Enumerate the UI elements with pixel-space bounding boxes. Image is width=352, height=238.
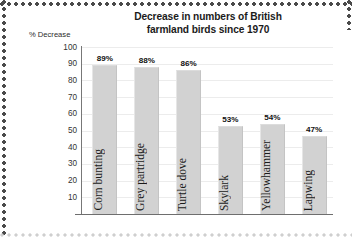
chart-title-line-2: farmland birds since 1970 xyxy=(88,24,328,37)
figure-frame: Decrease in numbers of British farmland … xyxy=(0,0,352,238)
bar-category-wrap: Lapwing xyxy=(302,111,327,211)
bar-category-wrap: Skylark xyxy=(218,111,243,211)
x-axis-line xyxy=(75,214,333,215)
gridline xyxy=(82,47,333,48)
bar-category-label: Turtle dove xyxy=(176,158,201,211)
y-tick-label: 10 xyxy=(51,193,77,202)
dotted-border-bottom xyxy=(0,233,352,237)
gridlines xyxy=(82,47,333,214)
bar-category-wrap: Turtle dove xyxy=(176,111,201,211)
y-axis-label: % Decrease xyxy=(29,30,70,39)
chart-title: Decrease in numbers of British farmland … xyxy=(88,11,328,36)
gridline xyxy=(82,80,333,81)
bar-category-label: Yellowhammer xyxy=(260,140,285,211)
bar-category-wrap: Yellowhammer xyxy=(260,111,285,211)
gridline xyxy=(82,97,333,98)
plot-area: 89%Corn bunting88%Grey partridge86%Turtl… xyxy=(82,47,333,214)
y-tick-label: 90 xyxy=(51,59,77,68)
chart-title-line-1: Decrease in numbers of British xyxy=(88,11,328,24)
bar-value-label: 88% xyxy=(134,56,159,65)
y-tick-label: 100 xyxy=(51,43,77,52)
y-tick-label: 20 xyxy=(51,176,77,185)
gridline xyxy=(82,114,333,115)
gridline xyxy=(82,164,333,165)
dotted-border-top xyxy=(0,2,352,6)
dotted-border-right xyxy=(347,0,351,30)
bar-category-label: Skylark xyxy=(218,175,243,211)
bar-group[interactable]: 53%Skylark xyxy=(218,47,243,214)
bar-value-label: 89% xyxy=(92,54,117,63)
bar-group[interactable]: 54%Yellowhammer xyxy=(260,47,285,214)
gridline xyxy=(82,64,333,65)
bar-category-label: Corn bunting xyxy=(92,149,117,211)
gridline xyxy=(82,147,333,148)
bar-category-wrap: Corn bunting xyxy=(92,111,117,211)
y-tick-label: 50 xyxy=(51,126,77,135)
bar-value-label: 86% xyxy=(176,59,201,68)
bar-category-label: Lapwing xyxy=(302,170,327,211)
bar-category-wrap: Grey partridge xyxy=(134,111,159,211)
y-tick-label: 40 xyxy=(51,143,77,152)
bar-group[interactable]: 88%Grey partridge xyxy=(134,47,159,214)
y-tick-label: 30 xyxy=(51,159,77,168)
gridline xyxy=(82,181,333,182)
dotted-border-left xyxy=(2,0,6,238)
bar-group[interactable]: 86%Turtle dove xyxy=(176,47,201,214)
bar-category-label: Grey partridge xyxy=(134,143,159,211)
y-tick-label: 80 xyxy=(51,76,77,85)
y-tick-label: 70 xyxy=(51,93,77,102)
y-tick-label: 60 xyxy=(51,109,77,118)
bar-group[interactable]: 89%Corn bunting xyxy=(92,47,117,214)
gridline xyxy=(82,197,333,198)
bar-group[interactable]: 47%Lapwing xyxy=(302,47,327,214)
gridline xyxy=(82,131,333,132)
